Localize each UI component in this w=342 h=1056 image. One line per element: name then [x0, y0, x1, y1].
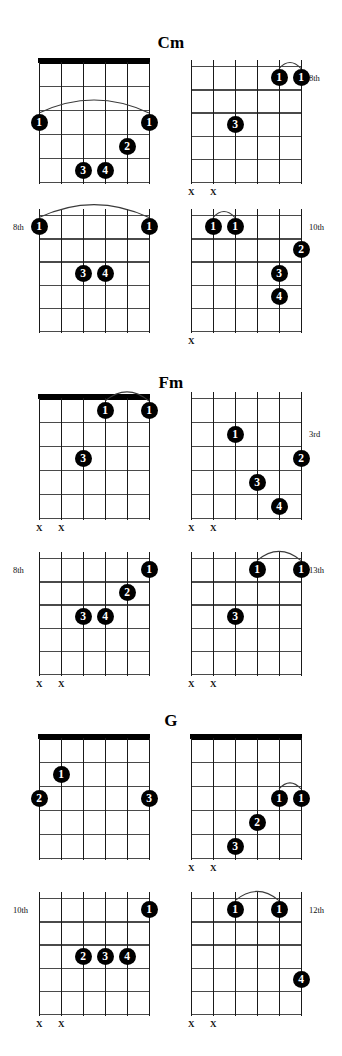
fret-position-label: 10th — [13, 906, 28, 915]
fret-line — [191, 331, 301, 332]
fret-line — [39, 110, 149, 111]
finger-dot: 2 — [293, 241, 310, 258]
fret-line — [191, 182, 301, 183]
finger-dot: 3 — [75, 608, 92, 625]
mute-marker: X — [188, 1020, 195, 1029]
string-line — [61, 738, 62, 860]
fret-line — [191, 136, 301, 137]
fret-line — [191, 398, 301, 399]
fret-position-label: 8th — [309, 74, 320, 83]
finger-dot: 3 — [227, 608, 244, 625]
fret-line — [39, 762, 149, 763]
finger-dot: 4 — [271, 288, 288, 305]
finger-dot: 3 — [227, 116, 244, 133]
fret-line — [39, 786, 149, 787]
finger-dot: 1 — [293, 69, 310, 86]
finger-dot: 1 — [141, 901, 158, 918]
fret-position-label: 10th — [309, 223, 324, 232]
mute-marker: X — [58, 1020, 65, 1029]
section-title-cm: Cm — [0, 33, 342, 53]
finger-dot: 3 — [271, 265, 288, 282]
fret-line — [191, 651, 301, 652]
mute-marker: X — [210, 1020, 217, 1029]
fret-line — [39, 738, 149, 740]
string-line — [257, 738, 258, 860]
finger-dot: 4 — [293, 971, 310, 988]
fret-line — [191, 604, 301, 605]
string-line — [191, 392, 192, 520]
fret-line — [191, 581, 301, 582]
fret-line — [191, 834, 301, 835]
fret-line — [191, 285, 301, 286]
fret-line — [39, 308, 149, 309]
barre-arc — [29, 52, 159, 192]
string-line — [61, 398, 62, 520]
string-line — [61, 209, 62, 333]
finger-dot: 3 — [249, 474, 266, 491]
mute-marker: X — [188, 680, 195, 689]
string-line — [213, 552, 214, 676]
finger-dot: 4 — [97, 265, 114, 282]
finger-dot: 1 — [227, 218, 244, 235]
finger-dot: 2 — [119, 584, 136, 601]
finger-dot: 4 — [271, 498, 288, 515]
string-line — [61, 552, 62, 676]
fret-line — [191, 89, 301, 90]
finger-dot: 1 — [293, 561, 310, 578]
fret-line — [39, 86, 149, 87]
string-line — [127, 552, 128, 676]
mute-marker: X — [36, 680, 43, 689]
string-line — [279, 552, 280, 676]
string-line — [191, 738, 192, 860]
string-line — [61, 892, 62, 1016]
fret-line — [191, 470, 301, 471]
fret-line — [39, 62, 149, 64]
fret-line — [191, 1014, 301, 1015]
finger-dot: 1 — [141, 561, 158, 578]
fret-line — [39, 285, 149, 286]
mute-marker: X — [210, 188, 217, 197]
finger-dot: 1 — [271, 901, 288, 918]
fret-line — [191, 674, 301, 675]
fret-line — [39, 558, 149, 559]
finger-dot: 1 — [205, 218, 222, 235]
fret-line — [191, 238, 301, 239]
barre-arc — [181, 548, 311, 684]
fret-line — [191, 215, 301, 216]
fret-line — [191, 991, 301, 992]
barre-arc — [181, 728, 311, 868]
fret-line — [191, 518, 301, 519]
finger-dot: 4 — [97, 608, 114, 625]
barre-arc — [29, 205, 159, 341]
string-line — [191, 892, 192, 1016]
finger-dot: 1 — [31, 218, 48, 235]
fret-line — [191, 786, 301, 787]
fret-line — [39, 604, 149, 605]
finger-dot: 3 — [97, 948, 114, 965]
fret-line — [191, 112, 301, 113]
finger-dot: 1 — [227, 426, 244, 443]
string-line — [257, 209, 258, 333]
fret-line — [39, 158, 149, 159]
string-line — [257, 392, 258, 520]
fret-line — [39, 1014, 149, 1015]
cm-voicing-3: 11348th — [39, 215, 149, 331]
mute-marker: X — [188, 337, 195, 346]
string-line — [213, 738, 214, 860]
fret-line — [39, 494, 149, 495]
fret-position-label: 8th — [13, 566, 24, 575]
finger-dot: 3 — [141, 790, 158, 807]
fret-line — [39, 331, 149, 332]
string-line — [213, 392, 214, 520]
fret-line — [191, 921, 301, 922]
barre-arc — [181, 888, 311, 1024]
string-line — [213, 60, 214, 184]
cm-voicing-4: 11234X10th — [191, 215, 301, 331]
fret-line — [191, 944, 301, 945]
string-line — [127, 738, 128, 860]
string-line — [191, 209, 192, 333]
finger-dot: 3 — [75, 162, 92, 179]
fm-voicing-4: 113XX13th — [191, 558, 301, 674]
string-line — [127, 209, 128, 333]
fret-line — [39, 261, 149, 262]
